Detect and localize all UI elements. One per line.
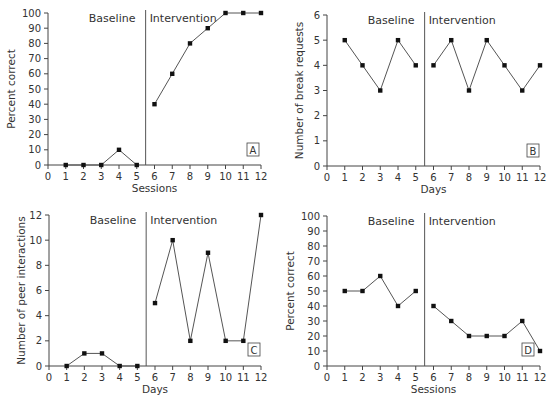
- data-point: [538, 63, 542, 67]
- x-tick-label: 4: [395, 372, 401, 383]
- x-tick-label: 10: [219, 171, 232, 182]
- x-tick-label: 7: [448, 372, 454, 383]
- data-point: [64, 163, 68, 167]
- chart-panel-c: 0246810120123456789101112DaysNumber of p…: [15, 210, 267, 396]
- data-point: [343, 289, 347, 293]
- data-series-line-baseline: [345, 276, 416, 306]
- chart-panel-b: 01234560123456789101112DaysNumber of bre…: [293, 10, 546, 196]
- panel-letter: B: [530, 146, 537, 157]
- data-point: [431, 63, 435, 67]
- y-tick-label: 8: [36, 260, 42, 271]
- data-point: [188, 339, 192, 343]
- x-tick-label: 11: [237, 171, 250, 182]
- phase-label-baseline: Baseline: [89, 12, 136, 25]
- y-tick-label: 2: [314, 110, 320, 121]
- y-tick-label: 80: [307, 241, 320, 252]
- y-tick-label: 80: [28, 38, 41, 49]
- data-point: [241, 11, 245, 15]
- data-point: [502, 334, 506, 338]
- data-point: [82, 351, 86, 355]
- data-point: [343, 38, 347, 42]
- x-tick-label: 3: [99, 372, 105, 383]
- data-point: [520, 88, 524, 92]
- x-tick-label: 0: [45, 171, 51, 182]
- data-point: [485, 334, 489, 338]
- y-tick-label: 5: [314, 35, 320, 46]
- y-tick-label: 0: [36, 361, 42, 372]
- x-tick-label: 3: [377, 372, 383, 383]
- x-axis-title: Days: [420, 183, 446, 195]
- x-tick-label: 11: [516, 172, 529, 183]
- data-point: [117, 148, 121, 152]
- x-tick-label: 7: [448, 172, 454, 183]
- y-tick-label: 90: [28, 23, 41, 34]
- x-tick-label: 10: [219, 372, 232, 383]
- y-tick-label: 1: [314, 135, 320, 146]
- y-tick-label: 30: [28, 114, 41, 125]
- x-tick-label: 4: [116, 372, 122, 383]
- data-point: [396, 304, 400, 308]
- x-tick-label: 2: [81, 372, 87, 383]
- data-point: [206, 251, 210, 255]
- data-point: [449, 38, 453, 42]
- x-tick-label: 12: [534, 172, 547, 183]
- data-point: [188, 41, 192, 45]
- x-tick-label: 5: [134, 171, 140, 182]
- y-tick-label: 50: [307, 286, 320, 297]
- y-axis-title: Number of peer interactions: [15, 216, 27, 364]
- data-point: [378, 274, 382, 278]
- y-tick-label: 10: [307, 346, 320, 357]
- data-point: [360, 289, 364, 293]
- x-tick-label: 4: [116, 171, 122, 182]
- y-tick-label: 6: [314, 10, 320, 21]
- data-point: [170, 238, 174, 242]
- x-tick-label: 7: [169, 171, 175, 182]
- y-tick-label: 0: [35, 160, 41, 171]
- phase-label-intervention: Intervention: [429, 14, 496, 27]
- phase-label-baseline: Baseline: [368, 14, 415, 27]
- chart-panel-a: 01020304050607080901000123456789101112Se…: [5, 8, 267, 195]
- data-point: [223, 339, 227, 343]
- x-axis-title: Days: [142, 383, 168, 395]
- multi-panel-chart-figure: 01020304050607080901000123456789101112Se…: [0, 0, 553, 411]
- y-tick-label: 40: [28, 99, 41, 110]
- x-tick-label: 1: [342, 372, 348, 383]
- y-axis-title: Percent correct: [5, 49, 17, 129]
- phase-label-intervention: Intervention: [150, 12, 217, 25]
- x-axis-title: Sessions: [132, 182, 178, 194]
- y-tick-label: 4: [36, 310, 42, 321]
- x-tick-label: 2: [359, 372, 365, 383]
- phase-label-baseline: Baseline: [90, 214, 137, 227]
- data-point: [241, 339, 245, 343]
- data-series-line-intervention: [155, 215, 261, 341]
- y-tick-label: 10: [29, 235, 42, 246]
- data-point: [64, 364, 68, 368]
- x-tick-label: 5: [134, 372, 140, 383]
- x-tick-label: 6: [152, 372, 158, 383]
- data-point: [467, 334, 471, 338]
- x-tick-label: 0: [324, 172, 330, 183]
- y-tick-label: 70: [307, 256, 320, 267]
- x-tick-label: 6: [430, 372, 436, 383]
- y-tick-label: 12: [29, 210, 42, 221]
- data-point: [153, 301, 157, 305]
- data-point: [100, 351, 104, 355]
- data-point: [206, 26, 210, 30]
- data-point: [259, 11, 263, 15]
- y-tick-label: 40: [307, 301, 320, 312]
- panel-letter: C: [251, 345, 258, 356]
- x-tick-label: 8: [466, 372, 472, 383]
- y-tick-label: 90: [307, 226, 320, 237]
- data-point: [467, 88, 471, 92]
- x-tick-label: 6: [151, 171, 157, 182]
- data-point: [259, 213, 263, 217]
- y-tick-label: 60: [28, 68, 41, 79]
- panel-letter: A: [250, 145, 257, 156]
- data-point: [520, 319, 524, 323]
- x-tick-label: 0: [324, 372, 330, 383]
- x-tick-label: 7: [169, 372, 175, 383]
- data-point: [396, 38, 400, 42]
- x-tick-label: 9: [484, 172, 490, 183]
- y-tick-label: 70: [28, 53, 41, 64]
- x-tick-label: 8: [187, 372, 193, 383]
